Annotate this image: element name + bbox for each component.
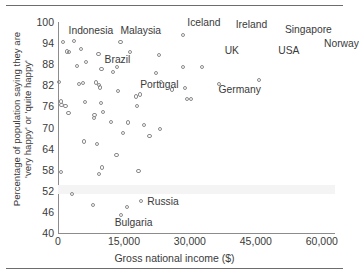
data-point [81,81,85,85]
data-point [91,203,95,207]
data-point [138,92,142,96]
x-tick-label: 60,000 [306,236,338,247]
annotation-russia: Russia [147,197,178,208]
data-point [111,70,115,74]
y-axis-label-wrap: Percentage of population saying they are… [9,12,35,227]
y-axis-label: Percentage of population saying they are… [10,32,33,206]
data-point [101,110,105,114]
scatter-plot-area: IndonesiaMalaysiaIcelandIrelandSingapore… [58,22,335,233]
y-tick-label: 40 [28,228,54,239]
data-point [96,52,100,56]
data-point [114,153,118,157]
data-point [67,50,71,54]
data-point [181,65,185,69]
data-point [136,169,140,173]
data-point [61,40,65,44]
data-point [66,111,70,115]
data-point [157,53,161,57]
annotation-germany: Germany [218,85,260,96]
annotation-usa: USA [278,46,299,57]
data-point [59,170,63,174]
x-tick-label: 0 [55,236,61,247]
data-point [70,192,74,196]
data-point [125,205,129,209]
data-point [82,139,86,143]
x-axis-line [58,233,335,234]
data-point [99,67,103,71]
data-point [200,65,204,69]
data-point [79,47,83,51]
data-point [98,85,102,89]
background-band [58,185,335,194]
data-point [63,104,67,108]
data-point [142,123,146,127]
data-point [135,104,139,108]
data-point [72,39,76,43]
bottom-rule [6,268,343,269]
data-point [75,64,79,68]
data-point [57,80,61,84]
annotation-indonesia: Indonesia [69,26,114,37]
data-point [95,142,99,146]
annotation-brazil: Brazil [105,55,131,66]
annotation-iceland: Iceland [187,18,220,29]
annotation-ireland: Ireland [236,20,267,31]
data-point [116,89,120,93]
data-point [183,86,187,90]
annotation-portugal: Portugal [140,80,178,91]
data-point [257,78,261,82]
data-point [100,165,104,169]
x-tick-label: 30,000 [174,236,206,247]
data-point [109,120,113,124]
data-point [84,60,88,64]
data-point [154,71,158,75]
top-rule [6,5,343,6]
annotation-uk: UK [225,46,239,57]
data-point [158,127,162,131]
data-point [126,120,130,124]
data-point [189,97,193,101]
annotation-bulgaria: Bulgaria [115,218,153,229]
x-tick-label: 15,000 [108,236,140,247]
data-point [97,172,101,176]
annotation-malaysia: Malaysia [120,26,161,37]
data-point [92,116,96,120]
data-point [83,100,87,104]
data-point [181,33,185,37]
data-point [121,131,125,135]
annotation-singapore: Singapore [285,25,332,36]
x-axis-label: Gross national income ($) [0,252,349,264]
x-tick-label: 45,000 [240,236,272,247]
annotation-norway: Norway [324,39,359,50]
data-point [139,199,143,203]
data-point [99,101,103,105]
data-point [147,134,151,138]
data-point [118,40,122,44]
